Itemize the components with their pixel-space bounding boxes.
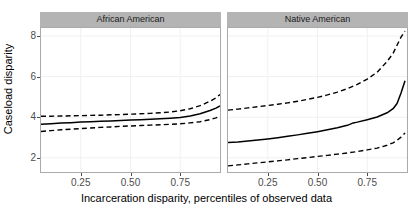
y-axis-title-text: Caseload disparity: [2, 44, 14, 135]
panel-strip-african-american: African American: [40, 12, 221, 27]
x-axis-tick-mark: [131, 173, 132, 176]
x-axis-tick-mark: [180, 173, 181, 176]
x-axis-african-american: 0.250.500.75: [40, 173, 221, 191]
x-axis-title: Incarceration disparity, percentiles of …: [0, 192, 413, 204]
series-line-lower-confidence-limit: [228, 133, 405, 166]
x-axis-tick-mark: [367, 173, 368, 176]
x-axis-native-american: 0.250.500.75: [227, 173, 408, 191]
panel-strip-label: African American: [40, 12, 221, 27]
gridlines: [41, 28, 220, 172]
panel-strip-native-american: Native American: [227, 12, 408, 27]
plot-area-native-american: [227, 27, 408, 173]
x-axis-tick-label: 0.25: [71, 177, 90, 188]
chart-figure: Caseload disparity 2468 African American…: [0, 0, 413, 215]
series-line-upper-confidence-limit: [228, 31, 405, 110]
y-axis: 2468: [16, 28, 40, 173]
panel-native-american: Native American: [227, 12, 408, 173]
plot-canvas: [41, 28, 220, 172]
x-axis-tick-label: 0.25: [258, 177, 277, 188]
x-axis-tick-mark: [318, 173, 319, 176]
panel-strip-label: Native American: [227, 12, 408, 27]
panel-african-american: African American: [40, 12, 221, 173]
x-axis-tick-mark: [268, 173, 269, 176]
x-axis-tick-label: 0.50: [308, 177, 327, 188]
series-line-estimate: [228, 81, 405, 143]
plot-area-african-american: [40, 27, 221, 173]
x-axis-tick-mark: [81, 173, 82, 176]
x-axis-tick-label: 0.50: [121, 177, 140, 188]
gridlines: [228, 28, 407, 172]
y-axis-title: Caseload disparity: [0, 0, 16, 178]
x-axis-tick-label: 0.75: [170, 177, 189, 188]
plot-canvas: [228, 28, 407, 172]
x-axis-tick-label: 0.75: [357, 177, 376, 188]
